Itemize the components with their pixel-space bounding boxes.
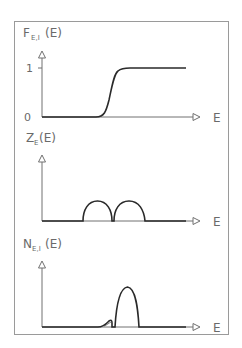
- panel-z: Z E (E) E: [26, 131, 221, 229]
- x-axis-arrow-icon: [193, 324, 200, 331]
- figure: F E,I (E) 1 0 E Z E (E) E N E,I (E): [0, 0, 242, 348]
- y-tick-label-0: 0: [24, 111, 31, 124]
- y-tick-label-1: 1: [26, 62, 33, 75]
- panel-title-arg: (E): [45, 237, 62, 251]
- z-curve: [42, 201, 186, 221]
- y-axis-arrow-icon: [39, 155, 46, 162]
- panel-title-sub: E,I: [32, 245, 41, 253]
- x-axis-arrow-icon: [193, 114, 200, 121]
- y-axis-arrow-icon: [39, 51, 46, 58]
- panel-fermi: F E,I (E) 1 0 E: [23, 26, 221, 125]
- y-axis-arrow-icon: [39, 261, 46, 268]
- x-axis-label: E: [213, 321, 221, 335]
- x-axis-label: E: [213, 111, 221, 125]
- panel-title-main: N: [23, 237, 32, 251]
- n-curve: [42, 287, 186, 327]
- x-axis-arrow-icon: [193, 218, 200, 225]
- panel-title-arg: (E): [39, 131, 56, 145]
- panel-title-arg: (E): [45, 26, 62, 40]
- x-axis-label: E: [213, 215, 221, 229]
- panel-title-sub: E,I: [31, 34, 40, 42]
- fermi-curve: [42, 68, 186, 117]
- panel-title-sub: E: [34, 139, 38, 147]
- panel-title-main: Z: [26, 131, 34, 145]
- panel-title-main: F: [23, 26, 30, 40]
- panel-n: N E,I (E) E: [23, 237, 221, 335]
